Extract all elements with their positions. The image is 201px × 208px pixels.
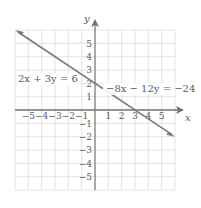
svg-text:−4: −4 xyxy=(35,111,49,121)
svg-text:−5: −5 xyxy=(22,111,36,121)
equation-label-2: −8x − 12y = −24 xyxy=(106,83,195,94)
svg-text:−1: −1 xyxy=(79,119,92,129)
svg-text:4: 4 xyxy=(86,52,92,62)
svg-text:5: 5 xyxy=(159,111,165,121)
svg-text:−3: −3 xyxy=(79,145,93,155)
svg-text:5: 5 xyxy=(86,39,92,49)
svg-text:1: 1 xyxy=(105,111,111,121)
svg-text:1: 1 xyxy=(86,92,92,102)
svg-text:−2: −2 xyxy=(79,132,92,142)
svg-text:−4: −4 xyxy=(79,159,93,169)
y-axis-label: y xyxy=(83,13,90,24)
svg-text:−3: −3 xyxy=(48,111,62,121)
svg-text:−5: −5 xyxy=(79,172,93,182)
x-axis-label: x xyxy=(185,112,191,123)
graph: x y −5 −4 −3 −2 −1 1 2 3 4 5 5 4 3 2 1 −… xyxy=(0,0,201,208)
svg-text:3: 3 xyxy=(132,111,138,121)
svg-text:2: 2 xyxy=(119,111,125,121)
svg-text:3: 3 xyxy=(86,65,92,75)
equation-label-1: 2x + 3y = 6 xyxy=(18,73,78,84)
svg-text:−2: −2 xyxy=(62,111,75,121)
